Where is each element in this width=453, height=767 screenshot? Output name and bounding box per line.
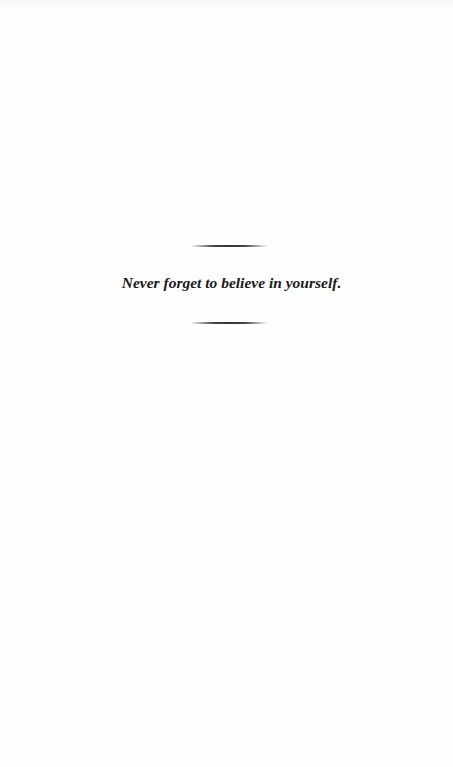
top-divider-rule — [190, 245, 268, 247]
page-edge-shadow — [0, 0, 453, 12]
bottom-divider-rule — [190, 322, 268, 324]
epigraph-quote: Never forget to believe in yourself. — [0, 274, 453, 292]
